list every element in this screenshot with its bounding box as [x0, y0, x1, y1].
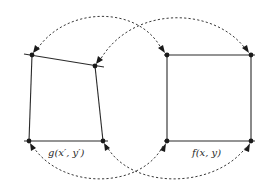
right-square-vertex-bottom-right: [249, 139, 254, 144]
left-quad-vertex-top-right: [93, 64, 98, 69]
left-quad-vertex-bottom-right: [101, 139, 106, 144]
left-quadrilateral: [24, 53, 108, 144]
right-square: [164, 53, 255, 144]
left-quad-right-edge: [95, 66, 103, 141]
arrowhead-right-top-left-icon: [158, 45, 165, 53]
left-shape-label: g(x′, y′): [48, 147, 84, 158]
arc-bottom-right-corners: [106, 145, 247, 179]
right-shape-label: f(x, y): [191, 147, 221, 158]
left-quad-top-edge: [24, 54, 104, 67]
arrowhead-left-top-left-icon: [33, 45, 40, 53]
right-square-vertex-top-left: [165, 53, 170, 58]
left-quad-vertex-top-left: [30, 53, 35, 58]
right-square-vertex-top-right: [249, 53, 254, 58]
arrowhead-right-bottom-left-icon: [160, 143, 166, 152]
correspondence-diagram: g(x′, y′) f(x, y): [0, 0, 271, 188]
left-quad-vertex-bottom-left: [27, 139, 32, 144]
arrowhead-right-bottom-right-icon: [244, 143, 250, 152]
arrowhead-left-bottom-left-icon: [30, 143, 36, 151]
right-square-vertex-bottom-left: [165, 139, 170, 144]
arc-top-left-corners: [36, 16, 162, 51]
arrowheads: [30, 45, 250, 152]
left-quad-left-edge: [29, 55, 32, 141]
